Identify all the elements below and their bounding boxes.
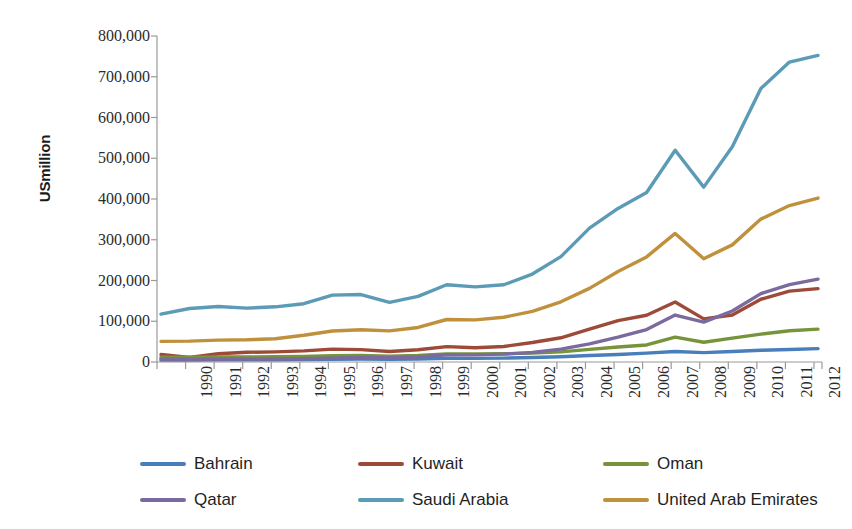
x-axis-tick-label: 2010 [769, 366, 787, 436]
legend-color-swatch [603, 462, 649, 466]
x-axis-tick-labels: 1990199119921993199419951996199719981999… [157, 366, 822, 428]
legend-color-swatch [358, 462, 404, 466]
y-axis-tick-label: 100,000 [60, 312, 150, 330]
x-axis-tick-label: 2003 [569, 366, 587, 436]
y-axis-tick-label: 500,000 [60, 149, 150, 167]
series-line-united-arab-emirates [161, 198, 818, 341]
x-axis-tick-label: 2012 [826, 366, 844, 436]
legend-color-swatch [358, 498, 404, 502]
chart-legend: BahrainKuwaitOmanQatarSaudi ArabiaUnited… [140, 446, 840, 518]
legend-item-oman[interactable]: Oman [603, 454, 840, 474]
x-axis-tick-label: 2004 [598, 366, 616, 436]
y-axis-tick-label: 400,000 [60, 190, 150, 208]
series-line-kuwait [161, 289, 818, 358]
x-axis-tick-label: 2008 [712, 366, 730, 436]
x-axis-tick-label: 1995 [341, 366, 359, 436]
y-axis-tick-labels: 800,000700,000600,000500,000400,000300,0… [60, 26, 150, 362]
legend-label: Kuwait [412, 454, 463, 474]
legend-item-bahrain[interactable]: Bahrain [140, 454, 358, 474]
x-axis-tick-label: 1990 [198, 366, 216, 436]
x-axis-tick-label: 1994 [312, 366, 330, 436]
legend-color-swatch [140, 498, 186, 502]
x-axis-tick-label: 2009 [741, 366, 759, 436]
x-axis-tick-label: 1998 [427, 366, 445, 436]
x-axis-tick-label: 2000 [484, 366, 502, 436]
legend-color-swatch [140, 462, 186, 466]
y-axis-tick-label: 300,000 [60, 231, 150, 249]
legend-label: Oman [657, 454, 703, 474]
x-axis-tick-label: 2001 [512, 366, 530, 436]
x-axis-tick-label: 2011 [798, 366, 816, 436]
x-axis-tick-label: 2005 [626, 366, 644, 436]
plot-area [157, 36, 822, 362]
y-axis-tick-label: 600,000 [60, 109, 150, 127]
x-axis-tick-label: 1991 [227, 366, 245, 436]
x-axis-tick-label: 1992 [255, 366, 273, 436]
x-axis-tick-label: 1993 [284, 366, 302, 436]
legend-label: Bahrain [194, 454, 253, 474]
legend-label: Saudi Arabia [412, 490, 508, 510]
x-axis-tick-label: 1997 [398, 366, 416, 436]
legend-label: United Arab Emirates [657, 490, 818, 510]
x-axis-tick-label: 2007 [684, 366, 702, 436]
legend-color-swatch [603, 498, 649, 502]
y-axis-title: USmillion [36, 99, 53, 239]
series-canvas [157, 36, 822, 362]
legend-item-kuwait[interactable]: Kuwait [358, 454, 603, 474]
legend-item-qatar[interactable]: Qatar [140, 490, 358, 510]
y-axis-tick-label: 0 [60, 353, 150, 371]
legend-item-united-arab-emirates[interactable]: United Arab Emirates [603, 490, 840, 510]
legend-label: Qatar [194, 490, 237, 510]
legend-item-saudi-arabia[interactable]: Saudi Arabia [358, 490, 603, 510]
line-chart: USmillion 800,000700,000600,000500,00040… [0, 0, 852, 529]
x-axis-tick-label: 1996 [369, 366, 387, 436]
x-axis-tick-label: 1999 [455, 366, 473, 436]
y-axis-tick-label: 200,000 [60, 272, 150, 290]
y-axis-tick-label: 700,000 [60, 68, 150, 86]
y-axis-tick-label: 800,000 [60, 27, 150, 45]
x-axis-tick-label: 2006 [655, 366, 673, 436]
series-line-saudi-arabia [161, 55, 818, 314]
x-axis-tick-label: 2002 [541, 366, 559, 436]
